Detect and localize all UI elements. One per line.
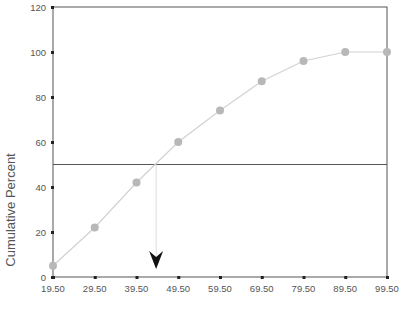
- reference-layer: [53, 165, 387, 270]
- x-tick-mark: [219, 276, 222, 279]
- data-point: [383, 48, 391, 56]
- y-tick-mark: [51, 186, 54, 189]
- x-tick-label: 39.50: [125, 283, 149, 294]
- y-axis-title: Cumulative Percent: [3, 153, 18, 267]
- x-tick-mark: [94, 276, 97, 279]
- data-point: [49, 262, 57, 270]
- y-tick-label: 100: [30, 47, 46, 58]
- y-tick-mark: [51, 141, 54, 144]
- plot-frame: [53, 7, 387, 277]
- x-tick-label: 19.50: [41, 283, 65, 294]
- x-tick-mark: [177, 276, 180, 279]
- y-tick-mark: [51, 231, 54, 234]
- x-tick-label: 59.50: [208, 283, 232, 294]
- y-tick-mark: [51, 96, 54, 99]
- x-tick-mark: [344, 276, 347, 279]
- x-tick-mark: [386, 276, 389, 279]
- y-tick-label: 60: [35, 137, 46, 148]
- cumulative-percent-chart: 020406080100120 19.5029.5039.5049.5059.5…: [0, 0, 402, 313]
- data-point: [216, 107, 224, 115]
- x-tick-label: 69.50: [250, 283, 274, 294]
- x-tick-label: 89.50: [333, 283, 357, 294]
- y-axis-ticks: 020406080100120: [30, 2, 54, 283]
- series-layer: [49, 48, 391, 270]
- plot-border: [53, 7, 387, 277]
- x-tick-label: 99.50: [375, 283, 399, 294]
- x-tick-mark: [261, 276, 264, 279]
- x-tick-label: 29.50: [83, 283, 107, 294]
- x-tick-label: 79.50: [292, 283, 316, 294]
- y-tick-label: 20: [35, 227, 46, 238]
- x-tick-mark: [52, 276, 55, 279]
- y-tick-mark: [51, 51, 54, 54]
- data-point: [91, 224, 99, 232]
- cumulative-line: [53, 52, 387, 266]
- y-tick-label: 80: [35, 92, 46, 103]
- y-tick-mark: [51, 6, 54, 9]
- x-tick-label: 49.50: [166, 283, 190, 294]
- data-point: [133, 179, 141, 187]
- x-tick-mark: [136, 276, 139, 279]
- data-point: [174, 138, 182, 146]
- y-tick-label: 40: [35, 182, 46, 193]
- data-point: [258, 77, 266, 85]
- y-tick-label: 0: [41, 272, 46, 283]
- data-point: [341, 48, 349, 56]
- x-tick-mark: [303, 276, 306, 279]
- y-tick-label: 120: [30, 2, 46, 13]
- data-point: [300, 57, 308, 65]
- x-axis-ticks: 19.5029.5039.5049.5059.5069.5079.5089.50…: [41, 276, 399, 294]
